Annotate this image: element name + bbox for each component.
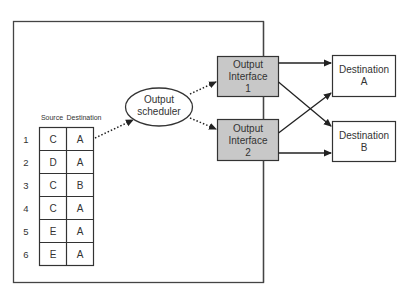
row-number: 2 xyxy=(23,157,28,168)
row-destination: A xyxy=(77,134,84,145)
destination-b-label-line1: Destination xyxy=(339,130,389,141)
row-source: E xyxy=(50,249,57,260)
scheduler-label-line2: scheduler xyxy=(137,106,181,117)
row-destination: A xyxy=(77,203,84,214)
arrow-if2-to-dest-a xyxy=(279,93,332,133)
dotted-arrow-scheduler-to-interface-1 xyxy=(190,82,216,94)
destination-b: Destination B xyxy=(333,122,396,162)
row-number: 4 xyxy=(23,203,28,214)
destination-a-label-line1: Destination xyxy=(339,64,389,75)
queue-table: Source Destination 1 C A 2 D A 3 C B 4 xyxy=(23,114,101,266)
dotted-arrow-queue-to-scheduler xyxy=(95,120,133,138)
destination-a: Destination A xyxy=(333,56,396,97)
header-source: Source xyxy=(41,114,63,121)
row-number: 3 xyxy=(23,180,28,191)
interface-1-label-line3: 1 xyxy=(245,83,251,94)
router-diagram: Source Destination 1 C A 2 D A 3 C B 4 xyxy=(0,0,412,297)
output-scheduler: Output scheduler xyxy=(126,88,193,126)
row-number: 5 xyxy=(23,226,28,237)
output-interface-2: Output Interface 2 xyxy=(218,120,279,161)
row-destination: A xyxy=(77,249,84,260)
interface-2-label-line1: Output xyxy=(233,123,263,134)
row-source: D xyxy=(49,157,56,168)
header-destination: Destination xyxy=(66,114,101,121)
row-source: E xyxy=(50,226,57,237)
interface-2-label-line3: 2 xyxy=(245,147,251,158)
row-source: C xyxy=(49,134,56,145)
row-destination: A xyxy=(77,226,84,237)
row-number: 1 xyxy=(23,134,28,145)
interface-2-label-line2: Interface xyxy=(229,135,268,146)
interface-1-label-line2: Interface xyxy=(229,71,268,82)
row-number: 6 xyxy=(23,249,28,260)
row-source: C xyxy=(49,180,56,191)
output-interface-1: Output Interface 1 xyxy=(218,57,279,97)
dotted-arrow-scheduler-to-interface-2 xyxy=(190,118,216,129)
destination-b-label-line2: B xyxy=(361,142,368,153)
scheduler-label-line1: Output xyxy=(144,94,174,105)
interface-1-label-line1: Output xyxy=(233,59,263,70)
arrow-if1-to-dest-b xyxy=(279,82,332,126)
row-source: C xyxy=(49,203,56,214)
row-destination: B xyxy=(77,180,84,191)
destination-a-label-line2: A xyxy=(361,76,368,87)
row-destination: A xyxy=(77,157,84,168)
